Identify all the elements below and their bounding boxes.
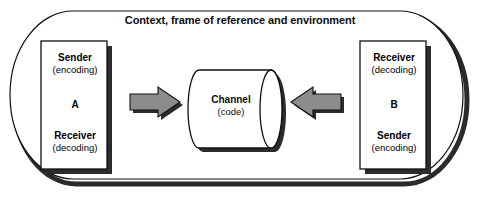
left-participant-letter-wrap: A [42, 99, 108, 110]
right-participant-letter: B [361, 99, 427, 110]
left-top-role-mode: (encoding) [42, 64, 108, 75]
environment-title: Context, frame of reference and environm… [60, 14, 420, 26]
left-participant-bottom-role: Receiver (decoding) [42, 130, 108, 153]
left-participant-top-role: Sender (encoding) [42, 52, 108, 75]
right-top-role-mode: (decoding) [361, 64, 427, 75]
right-participant-top-role: Receiver (decoding) [361, 52, 427, 75]
channel-label-sub: (code) [196, 107, 266, 118]
right-participant-letter-wrap: B [361, 99, 427, 110]
right-top-role-name: Receiver [361, 52, 427, 63]
right-participant-bottom-role: Sender (encoding) [361, 130, 427, 153]
right-bottom-role-mode: (encoding) [361, 142, 427, 153]
left-top-role-name: Sender [42, 52, 108, 63]
left-bottom-role-name: Receiver [42, 130, 108, 141]
left-bottom-role-mode: (decoding) [42, 142, 108, 153]
communication-model-diagram: Context, frame of reference and environm… [0, 0, 477, 221]
right-bottom-role-name: Sender [361, 130, 427, 141]
left-participant-letter: A [42, 99, 108, 110]
channel-label-name: Channel [196, 94, 266, 105]
channel-label: Channel (code) [196, 94, 266, 118]
